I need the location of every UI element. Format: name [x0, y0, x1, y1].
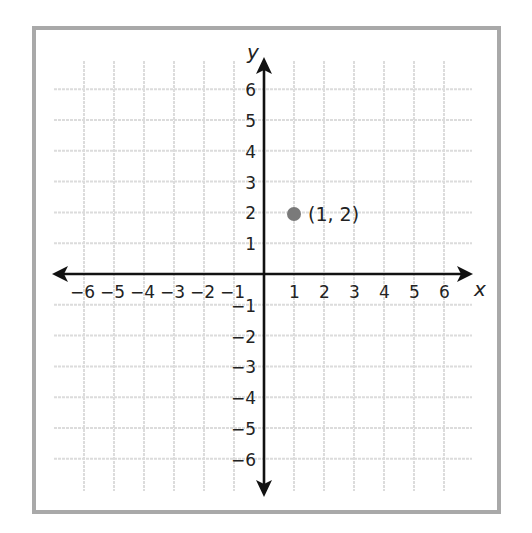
- y-tick-label: 5: [245, 111, 256, 131]
- plotted-point: [287, 207, 301, 221]
- y-tick-label: −2: [231, 327, 256, 347]
- y-tick-label: −3: [231, 357, 256, 377]
- x-tick-labels: −6−5−4−3−2−1123456: [70, 282, 450, 302]
- x-tick-label: 6: [439, 282, 450, 302]
- x-tick-label: −5: [100, 282, 125, 302]
- y-tick-label: 1: [245, 234, 256, 254]
- x-tick-label: −4: [130, 282, 155, 302]
- frame-border: [34, 28, 499, 512]
- y-tick-label: −6: [231, 450, 256, 470]
- y-tick-label: 6: [245, 80, 256, 100]
- y-tick-label: 4: [245, 142, 256, 162]
- y-axis-label: y: [246, 40, 260, 64]
- x-tick-label: 4: [379, 282, 390, 302]
- y-tick-label: −4: [231, 388, 256, 408]
- x-tick-label: 1: [289, 282, 300, 302]
- x-tick-label: 5: [409, 282, 420, 302]
- x-tick-label: 2: [319, 282, 330, 302]
- x-tick-label: 3: [349, 282, 360, 302]
- x-tick-label: −3: [160, 282, 185, 302]
- x-tick-label: −2: [190, 282, 215, 302]
- y-tick-label: 2: [245, 203, 256, 223]
- x-axis-label: x: [473, 277, 486, 301]
- y-tick-label: 3: [245, 173, 256, 193]
- y-tick-label: −1: [231, 296, 256, 316]
- point-label: (1, 2): [308, 203, 359, 225]
- y-tick-label: −5: [231, 419, 256, 439]
- x-tick-label: −6: [70, 282, 95, 302]
- coordinate-plane: y x −6−5−4−3−2−1123456 654321−1−2−3−4−5−…: [0, 0, 532, 533]
